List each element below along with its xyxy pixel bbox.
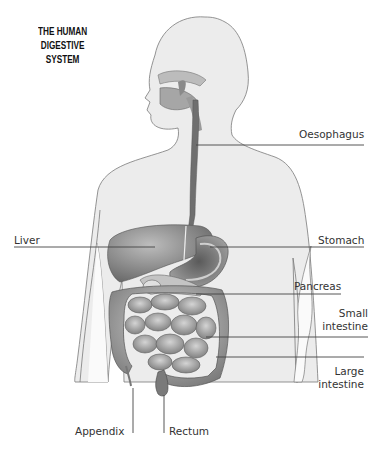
digestive-system-diagram: THE HUMAN DIGESTIVE SYSTEM Oesophagus Li… <box>0 0 378 452</box>
diagram-title: THE HUMAN DIGESTIVE SYSTEM <box>38 25 87 67</box>
label-pancreas: Pancreas <box>294 280 341 293</box>
label-liver: Liver <box>14 234 40 247</box>
label-oesophagus: Oesophagus <box>299 128 364 141</box>
label-large-intestine: Large intestine <box>314 365 364 391</box>
label-stomach: Stomach <box>318 234 364 247</box>
label-appendix: Appendix <box>75 425 124 438</box>
label-rectum: Rectum <box>169 425 209 438</box>
label-small-intestine: Small intestine <box>318 307 368 333</box>
